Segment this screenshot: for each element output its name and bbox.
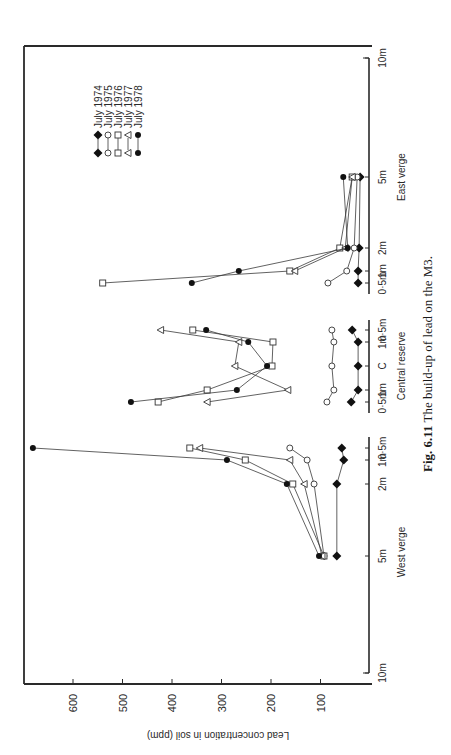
series-july-1978: [30, 174, 351, 559]
series-line: [337, 448, 344, 556]
marker-open-triangle: [301, 481, 308, 488]
value-tick-label: 200: [265, 694, 277, 712]
marker-diamond: [354, 267, 363, 276]
series-line: [200, 448, 322, 556]
figure-caption: Fig. 6.11 The build-up of lead on the M3…: [420, 256, 435, 472]
marker-open-circle: [105, 132, 111, 138]
marker-diamond: [339, 456, 348, 465]
marker-open-circle: [105, 150, 111, 156]
marker-open-triangle: [125, 150, 132, 157]
legend-label: July 1978: [133, 85, 144, 128]
marker-diamond: [332, 552, 341, 561]
marker-open-triangle: [157, 327, 164, 334]
group-label-east-verge: East verge: [396, 153, 407, 201]
marker-filled-circle: [340, 174, 346, 180]
lead-chart: 100200300400500600 Lead concentration in…: [0, 0, 451, 755]
marker-filled-circle: [189, 280, 195, 286]
marker-open-circle: [329, 363, 335, 369]
distance-axis: 0·5m1m2m5m10m0·5m1mC1m0·5m10m5m2m1m0·5m: [363, 48, 388, 682]
marker-filled-circle: [316, 553, 322, 559]
marker-open-triangle: [284, 387, 291, 394]
marker-filled-circle: [135, 132, 141, 138]
series-july-1975: [287, 174, 360, 559]
marker-diamond: [348, 326, 357, 335]
marker-open-circle: [304, 457, 310, 463]
marker-open-square: [242, 457, 248, 463]
caption-fig-number: Fig. 6.11: [420, 425, 435, 472]
marker-open-triangle: [286, 457, 293, 464]
marker-diamond: [354, 279, 363, 288]
marker-open-triangle: [125, 132, 132, 139]
marker-open-triangle: [204, 399, 211, 406]
marker-filled-circle: [264, 363, 270, 369]
marker-open-circle: [331, 339, 337, 345]
value-tick-label: 600: [67, 694, 79, 712]
marker-diamond: [354, 362, 363, 371]
value-tick-label: 400: [166, 694, 178, 712]
marker-filled-circle: [234, 387, 240, 393]
distance-tick-label: 10m: [377, 663, 388, 682]
value-tick-label: 100: [315, 694, 327, 712]
marker-open-square: [155, 399, 161, 405]
series-line: [158, 330, 273, 402]
series-july-1974: [332, 173, 364, 561]
marker-diamond: [332, 480, 341, 489]
distance-tick-label: 2m: [377, 477, 388, 491]
value-tick-label: 500: [117, 694, 129, 712]
legend: July 1974July 1975July 1976July 1977July…: [93, 85, 144, 158]
marker-diamond: [347, 398, 356, 407]
marker-open-circle: [324, 399, 330, 405]
series-layer: [30, 173, 365, 561]
series-line: [295, 177, 352, 271]
distance-tick-label: 1m: [377, 383, 388, 397]
marker-open-circle: [311, 481, 317, 487]
legend-item: July 1978: [133, 85, 144, 156]
value-tick-label: 300: [216, 694, 228, 712]
distance-tick-label: 0·5m: [377, 319, 388, 342]
marker-open-square: [115, 150, 121, 156]
marker-open-triangle: [231, 363, 238, 370]
series-line: [190, 448, 324, 556]
marker-diamond: [337, 444, 346, 453]
marker-filled-circle: [30, 445, 36, 451]
marker-filled-circle: [224, 457, 230, 463]
marker-diamond: [354, 338, 363, 347]
marker-filled-circle: [236, 268, 242, 274]
marker-open-circle: [331, 387, 337, 393]
marker-filled-circle: [284, 481, 290, 487]
marker-filled-circle: [128, 399, 134, 405]
marker-open-square: [115, 132, 121, 138]
marker-open-square: [190, 327, 196, 333]
marker-open-square: [100, 280, 106, 286]
marker-open-square: [204, 387, 210, 393]
marker-open-square: [270, 339, 276, 345]
distance-tick-label: 0·5m: [377, 437, 388, 460]
marker-open-circle: [344, 268, 350, 274]
distance-tick-label: C: [377, 362, 388, 369]
series-line: [192, 177, 348, 283]
distance-tick-label: 2m: [377, 241, 388, 255]
value-axis-title: Lead concentration in soil (ppm): [147, 730, 289, 741]
marker-filled-circle: [203, 327, 209, 333]
distance-tick-label: 5m: [377, 170, 388, 184]
series-july-1977: [157, 174, 355, 560]
marker-filled-circle: [245, 339, 251, 345]
marker-open-circle: [351, 245, 357, 251]
series-line: [103, 177, 352, 283]
marker-open-circle: [329, 327, 335, 333]
marker-open-circle: [325, 280, 331, 286]
marker-diamond: [354, 386, 363, 395]
series-july-1976: [100, 174, 355, 559]
distance-tick-label: 1m: [377, 264, 388, 278]
distance-tick-label: 10m: [377, 48, 388, 67]
marker-filled-circle: [345, 245, 351, 251]
marker-filled-circle: [135, 150, 141, 156]
marker-open-square: [187, 445, 193, 451]
plot-frame: [24, 46, 372, 684]
group-label-central-reserve: Central reserve: [396, 331, 407, 400]
distance-tick-label: 5m: [377, 549, 388, 563]
marker-open-square: [290, 481, 296, 487]
group-label-west-verge: West verge: [396, 526, 407, 577]
marker-open-circle: [287, 445, 293, 451]
series-line: [328, 177, 357, 283]
